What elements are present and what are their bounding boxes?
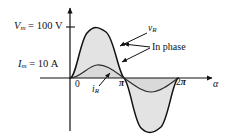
two-pi-symbol: π bbox=[181, 77, 186, 87]
waveform-figure: Vm = 100 V Im = 10 A 0 π 2π α vR iR In p… bbox=[0, 0, 226, 137]
x-axis-label-alpha: α bbox=[213, 79, 218, 89]
vm-subscript: m bbox=[20, 24, 25, 32]
vr-subscript: R bbox=[152, 26, 156, 34]
im-equals: = bbox=[29, 58, 35, 69]
im-value: 10 bbox=[38, 58, 49, 69]
im-unit: A bbox=[51, 58, 59, 69]
vm-equals: = bbox=[28, 20, 34, 31]
im-subscript: m bbox=[22, 62, 27, 70]
x-tick-label-two-pi: 2π bbox=[176, 78, 186, 88]
inphase-leader-lower bbox=[122, 48, 150, 62]
vm-unit: V bbox=[55, 20, 63, 31]
y-axis-label-im: Im = 10 A bbox=[18, 59, 58, 70]
y-axis-label-vm: Vm = 100 V bbox=[14, 21, 63, 32]
voltage-curve-label: vR bbox=[148, 24, 157, 34]
vm-value: 100 bbox=[37, 20, 53, 31]
x-tick-label-pi: π bbox=[119, 79, 124, 89]
x-tick-label-zero: 0 bbox=[75, 80, 80, 90]
inphase-leader-upper bbox=[124, 44, 150, 47]
current-curve-label: iR bbox=[92, 85, 99, 95]
in-phase-annotation: In phase bbox=[152, 42, 186, 52]
ir-subscript: R bbox=[95, 87, 99, 95]
